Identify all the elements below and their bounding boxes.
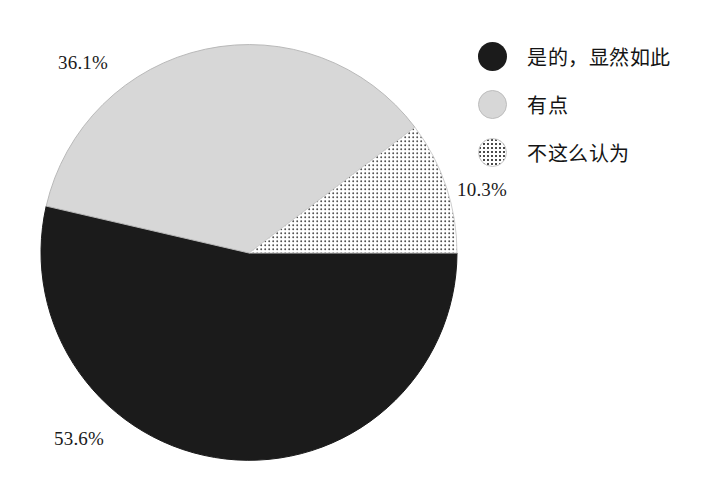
gray-circle-swatch-icon — [478, 90, 507, 119]
legend-item-label: 不这么认为 — [527, 138, 630, 167]
legend-item-label: 有点 — [527, 90, 568, 119]
pie-chart: 36.1% 10.3% 53.6% 是的，显然如此 有点 不这么认为 — [0, 0, 716, 489]
slice-value-label-somewhat: 36.1% — [58, 52, 108, 74]
dark-circle-swatch-icon — [478, 42, 507, 71]
chart-legend: 是的，显然如此 有点 不这么认为 — [478, 32, 708, 176]
dotted-circle-swatch-icon — [478, 138, 507, 167]
legend-item-label: 是的，显然如此 — [527, 42, 671, 71]
legend-item-dont-think-so: 不这么认为 — [478, 128, 708, 176]
slice-value-label-yes-obviously: 53.6% — [54, 428, 104, 450]
slice-value-label-dont-think-so: 10.3% — [457, 179, 507, 201]
legend-item-yes-obviously: 是的，显然如此 — [478, 32, 708, 80]
legend-item-somewhat: 有点 — [478, 80, 708, 128]
